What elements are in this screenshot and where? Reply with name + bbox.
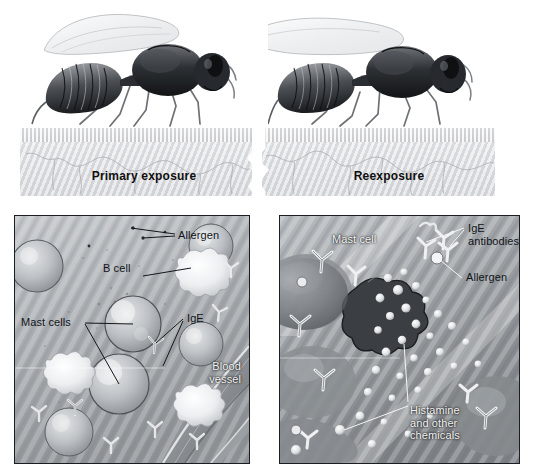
slab-break-zigzag (248, 126, 274, 198)
leader-lines-right-panel (280, 216, 519, 463)
stage-label-reexposure: Reexposure (334, 170, 444, 183)
allergy-figure: Primary exposure Reexposure (0, 0, 533, 473)
stage-label-primary-exposure: Primary exposure (84, 170, 204, 183)
wasp-illustration-reexposure (268, 8, 498, 144)
panel-reexposure-detail: Mast cell IgE antibodies Allergen Histam… (279, 215, 520, 464)
panel-primary-exposure-detail: Allergen B cell Mast cells IgE Blood ves… (14, 215, 250, 464)
leader-lines-left-panel (15, 216, 249, 463)
wasp-illustration-primary (22, 6, 252, 142)
